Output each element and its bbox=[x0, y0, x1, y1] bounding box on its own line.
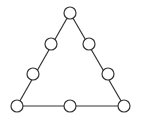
circle-node-bottom-right bbox=[118, 100, 130, 112]
circle-node-top bbox=[64, 7, 76, 19]
circle-node-right-lower bbox=[102, 68, 114, 80]
circle-node-right-upper bbox=[83, 38, 95, 50]
edge-top-bottom-left bbox=[17, 13, 70, 106]
triangle-circle-diagram bbox=[0, 0, 142, 126]
triangle-nodes bbox=[11, 7, 130, 112]
circle-node-bottom-middle bbox=[64, 100, 76, 112]
edge-top-bottom-right bbox=[70, 13, 124, 106]
circle-node-left-upper bbox=[45, 38, 57, 50]
circle-node-left-lower bbox=[27, 68, 39, 80]
circle-node-bottom-left bbox=[11, 100, 23, 112]
triangle-edges bbox=[17, 13, 124, 106]
